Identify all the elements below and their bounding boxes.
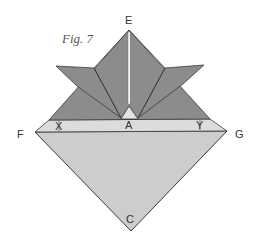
- label-y: Y: [196, 119, 204, 131]
- label-g: G: [235, 128, 244, 140]
- label-c: C: [126, 213, 134, 225]
- label-e: E: [125, 14, 132, 26]
- figure-caption: Fig. 7: [61, 31, 94, 46]
- label-a: A: [125, 119, 133, 131]
- center-slit: [128, 32, 130, 104]
- label-f: F: [17, 128, 24, 140]
- label-x: X: [55, 120, 63, 132]
- origami-diagram: Fig. 7 E A F G X Y C: [0, 0, 256, 248]
